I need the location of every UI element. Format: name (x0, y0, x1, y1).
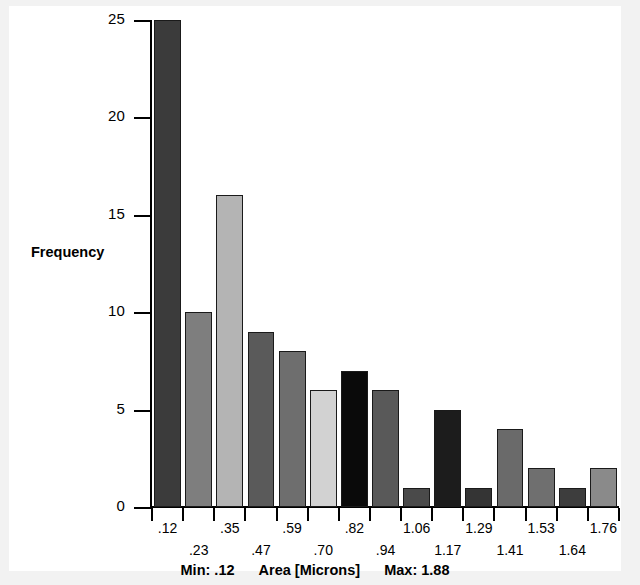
y-tick-mark (134, 215, 151, 217)
bar-.94 (372, 390, 399, 507)
bar-1.29 (465, 488, 492, 507)
y-tick-mark (134, 410, 151, 412)
x-tick-label-1.53: 1.53 (519, 520, 563, 536)
bar-.70 (310, 390, 337, 507)
y-tick-label: 5 (116, 400, 125, 417)
chart-caption: Min: .12 Area [Microns] Max: 1.88 (9, 562, 621, 578)
page-background: 0510152025 .12.23.35.47.59.70.82.941.061… (0, 0, 640, 585)
x-tick-label-.47: .47 (239, 542, 283, 558)
max-label: Max: 1.88 (384, 562, 449, 578)
bar-1.76 (590, 468, 617, 507)
y-tick-mark (134, 507, 151, 509)
y-tick-label: 20 (108, 107, 125, 124)
x-tick-label-.59: .59 (270, 520, 314, 536)
histogram-plot: 0510152025 .12.23.35.47.59.70.82.941.061… (9, 6, 621, 571)
y-tick-label: 15 (108, 205, 125, 222)
bar-.59 (279, 351, 306, 507)
y-tick-mark (134, 20, 151, 22)
bar-1.06 (403, 488, 430, 507)
x-tick-label-.12: .12 (146, 520, 190, 536)
min-label: Min: .12 (181, 562, 235, 578)
y-tick-label: 0 (116, 497, 125, 514)
y-tick-label: 25 (108, 10, 125, 27)
bar-.23 (185, 312, 212, 507)
x-tick-label-1.06: 1.06 (395, 520, 439, 536)
bar-.12 (154, 20, 181, 507)
bar-1.17 (434, 410, 461, 507)
bar-1.41 (497, 429, 524, 507)
x-tick-label-.70: .70 (301, 542, 345, 558)
x-tick-label-1.41: 1.41 (488, 542, 532, 558)
bar-series (152, 20, 619, 507)
chart-card: 0510152025 .12.23.35.47.59.70.82.941.061… (9, 6, 621, 571)
bar-1.53 (528, 468, 555, 507)
x-tick-label-.82: .82 (332, 520, 376, 536)
bar-.35 (216, 195, 243, 507)
x-tick-label-1.76: 1.76 (581, 520, 625, 536)
x-tick-label-1.64: 1.64 (550, 542, 594, 558)
x-tick-label-1.29: 1.29 (457, 520, 501, 536)
x-axis-title: Area [Microns] (259, 562, 361, 578)
x-tick-label-.35: .35 (208, 520, 252, 536)
y-axis-label: Frequency (31, 244, 104, 260)
x-tick-label-.94: .94 (364, 542, 408, 558)
x-tick-label-.23: .23 (177, 542, 221, 558)
bar-.47 (248, 332, 275, 507)
x-tick-label-1.17: 1.17 (426, 542, 470, 558)
y-tick-mark (134, 312, 151, 314)
y-tick-label: 10 (108, 302, 125, 319)
y-tick-mark (134, 117, 151, 119)
bar-.82 (341, 371, 368, 507)
bar-1.64 (559, 488, 586, 507)
